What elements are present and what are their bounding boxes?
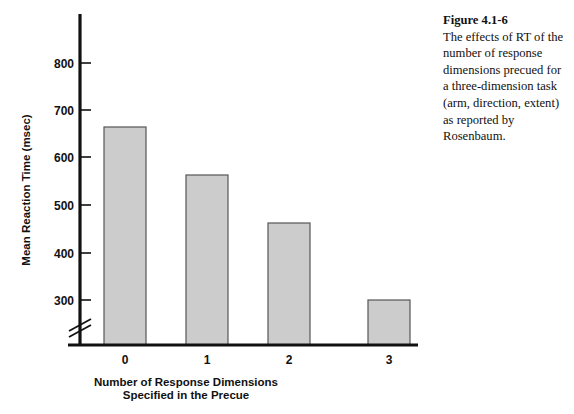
y-tick-marks (80, 63, 91, 300)
y-tick-label-400: 400 (54, 247, 74, 261)
y-tick-label-500: 500 (54, 199, 74, 213)
x-axis-title-line1: Number of Response Dimensions (94, 376, 278, 388)
y-tick-label-300: 300 (54, 294, 74, 308)
bars-group (104, 127, 410, 345)
y-axis-title: Mean Reaction Time (msec) (20, 114, 32, 265)
figure-caption-title: Figure 4.1-6 (443, 12, 565, 29)
bar-category-2 (268, 223, 310, 345)
figure-caption-body: The effects of RT of the number of respo… (443, 29, 565, 145)
y-tick-label-600: 600 (54, 151, 74, 165)
x-tick-label-3: 3 (386, 353, 393, 367)
y-tick-label-800: 800 (54, 57, 74, 71)
chart-canvas: 800 700 600 500 400 300 0 1 2 3 Number o… (0, 0, 420, 414)
bar-category-0 (104, 127, 146, 345)
y-tick-label-700: 700 (54, 104, 74, 118)
x-tick-label-1: 1 (204, 353, 211, 367)
x-tick-label-0: 0 (122, 353, 129, 367)
bar-chart: 800 700 600 500 400 300 0 1 2 3 Number o… (0, 0, 420, 414)
bar-category-3 (368, 300, 410, 345)
x-axis-title-line2: Specified in the Precue (123, 389, 250, 401)
bar-category-1 (186, 175, 228, 345)
figure-container: 800 700 600 500 400 300 0 1 2 3 Number o… (0, 0, 574, 414)
figure-caption: Figure 4.1-6 The effects of RT of the nu… (443, 12, 565, 145)
x-tick-label-2: 2 (286, 353, 293, 367)
